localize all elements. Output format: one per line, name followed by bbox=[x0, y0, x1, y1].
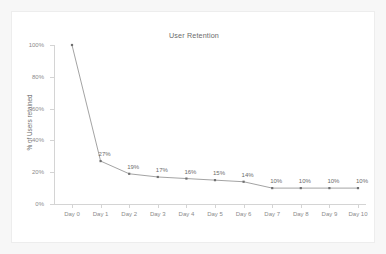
x-tick-label: Day 7 bbox=[264, 211, 280, 217]
data-point-marker bbox=[157, 176, 159, 178]
chart-card: User Retention % of Users retained 0%20%… bbox=[11, 11, 375, 243]
x-tick-label: Day 1 bbox=[93, 211, 109, 217]
data-point-marker bbox=[128, 173, 130, 175]
data-point-marker bbox=[71, 44, 73, 46]
point-value-label: 19% bbox=[127, 164, 139, 170]
point-value-label: 17% bbox=[156, 167, 168, 173]
x-tick-label: Day 5 bbox=[207, 211, 223, 217]
y-tick-label: 40% bbox=[32, 137, 44, 143]
data-point-marker bbox=[185, 177, 187, 179]
screenshot-root: User Retention % of Users retained 0%20%… bbox=[0, 0, 386, 254]
x-tick-label: Day 2 bbox=[121, 211, 137, 217]
point-value-label: 14% bbox=[242, 172, 254, 178]
data-point-marker bbox=[271, 187, 273, 189]
data-point-marker bbox=[100, 160, 102, 162]
data-point-marker bbox=[328, 187, 330, 189]
x-tick-label: Day 6 bbox=[236, 211, 252, 217]
plot-area: 0%20%40%60%80%100% Day 0Day 1Day 2Day 3D… bbox=[54, 45, 366, 204]
point-value-label: 10% bbox=[299, 178, 311, 184]
point-value-label: 10% bbox=[327, 178, 339, 184]
x-tick-label: Day 8 bbox=[293, 211, 309, 217]
data-point-marker bbox=[243, 181, 245, 183]
data-point-marker bbox=[214, 179, 216, 181]
point-value-label: 10% bbox=[356, 178, 368, 184]
x-tick-label: Day 9 bbox=[322, 211, 338, 217]
y-tick-label: 100% bbox=[29, 42, 44, 48]
point-value-label: 10% bbox=[270, 178, 282, 184]
data-point-marker bbox=[300, 187, 302, 189]
point-value-label: 15% bbox=[213, 170, 225, 176]
y-tick-label: 20% bbox=[32, 169, 44, 175]
y-tick-label: 60% bbox=[32, 106, 44, 112]
point-value-label: 16% bbox=[184, 169, 196, 175]
y-tick-label: 80% bbox=[32, 74, 44, 80]
x-tick-label: Day 4 bbox=[179, 211, 195, 217]
y-axis-title: % of Users retained bbox=[26, 78, 33, 168]
point-value-label: 27% bbox=[99, 151, 111, 157]
y-tick-label: 0% bbox=[35, 201, 44, 207]
x-tick-label: Day 0 bbox=[64, 211, 80, 217]
x-tick-label: Day 10 bbox=[348, 211, 367, 217]
chart-title: User Retention bbox=[12, 31, 376, 40]
x-tick-label: Day 3 bbox=[150, 211, 166, 217]
retention-line-series bbox=[54, 45, 366, 205]
data-point-marker bbox=[357, 187, 359, 189]
